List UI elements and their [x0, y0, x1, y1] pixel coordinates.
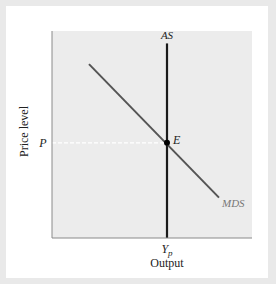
x-tick-label-yp: Yp — [161, 242, 173, 258]
y-tick-label-p: P — [38, 136, 47, 150]
equilibrium-point — [164, 140, 170, 146]
x-axis-label: Output — [150, 256, 184, 270]
x-tick-label-sub: p — [167, 248, 173, 258]
mds-curve-label: MDS — [221, 197, 245, 209]
chart: Price level Output P Yp AS MDS E — [0, 0, 276, 284]
equilibrium-label: E — [172, 133, 181, 147]
as-curve-label: AS — [160, 29, 174, 41]
y-axis-label: Price level — [17, 105, 31, 157]
